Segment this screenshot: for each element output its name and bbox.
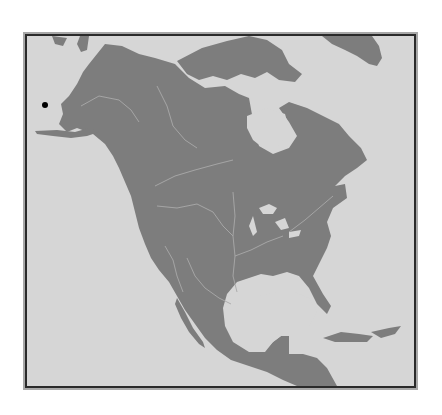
- location-marker: [42, 102, 48, 108]
- cuba: [323, 332, 373, 342]
- map-svg: [27, 36, 414, 386]
- hispaniola: [371, 326, 401, 338]
- alaska-north-islands: [52, 36, 89, 52]
- arctic-islands: [177, 36, 302, 82]
- greenland: [322, 36, 382, 66]
- mainland: [59, 44, 367, 386]
- north-america-map: [27, 36, 414, 386]
